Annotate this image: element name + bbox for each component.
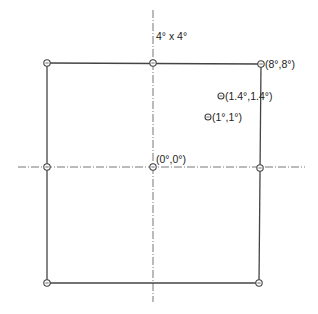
label-point-1: (1°,1°) (212, 111, 242, 123)
marker-middle-right (257, 165, 263, 171)
label-point-1-4: (1.4°,1.4°) (225, 90, 273, 102)
marker-top-left (44, 60, 50, 66)
marker-point-1 (205, 114, 211, 120)
label-top-right: (8°,8°) (265, 58, 295, 70)
field-size-label: 4° x 4° (156, 30, 187, 42)
marker-bottom-left (44, 280, 50, 286)
marker-top-middle (150, 60, 156, 66)
label-center: (0°,0°) (156, 153, 186, 165)
marker-point-1-4 (218, 93, 224, 99)
marker-bottom-right (256, 280, 262, 286)
marker-top-right (258, 61, 264, 67)
diagram-canvas: 4° x 4° (8°,8°) (1.4°,1.4°) (1°,1°) (0°,… (0, 0, 318, 314)
marker-middle-left (44, 164, 50, 170)
